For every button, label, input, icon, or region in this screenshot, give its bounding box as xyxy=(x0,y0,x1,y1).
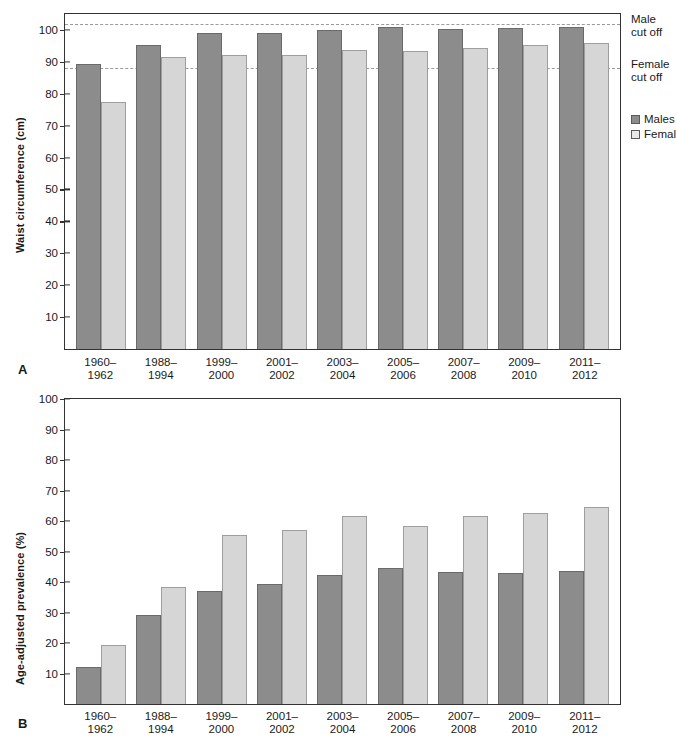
bar-group xyxy=(554,399,614,704)
x-axis-category-label: 1960– 1962 xyxy=(70,710,131,736)
bar-females xyxy=(161,587,186,704)
y-tick-label: 70 xyxy=(25,485,65,497)
x-axis-category-label: 2009– 2010 xyxy=(494,356,555,382)
panel-a: Waist circumference (cm) 102030405060708… xyxy=(0,0,676,390)
bar-females xyxy=(342,516,367,704)
x-axis-category-label: 2007– 2008 xyxy=(433,356,494,382)
x-axis-category-label: 2003– 2004 xyxy=(312,710,373,736)
bar-group xyxy=(71,14,131,349)
y-tick-label: 100 xyxy=(25,393,65,405)
legend-label-males: Males xyxy=(644,112,675,127)
legend-item-males: Males xyxy=(631,112,676,127)
y-tick-label: 10 xyxy=(25,311,65,323)
bar-group xyxy=(554,14,614,349)
figure-waist-circumference-and-prevalence: Waist circumference (cm) 102030405060708… xyxy=(0,0,676,756)
panel-a-plot-area: 102030405060708090100 xyxy=(64,13,621,350)
bar-males xyxy=(197,591,222,704)
x-axis-category-label: 1960– 1962 xyxy=(70,356,131,382)
y-tick-label: 90 xyxy=(25,424,65,436)
x-axis-category-label: 2011– 2012 xyxy=(555,356,616,382)
x-axis-category-label: 1988– 1994 xyxy=(131,710,192,736)
bar-females xyxy=(282,530,307,704)
bar-group xyxy=(252,399,312,704)
bar-males xyxy=(136,615,161,704)
x-axis-category-label: 2005– 2006 xyxy=(373,710,434,736)
bar-group xyxy=(493,399,553,704)
x-axis-category-label: 2003– 2004 xyxy=(312,356,373,382)
x-axis-category-label: 2011– 2012 xyxy=(555,710,616,736)
bar-females xyxy=(463,48,488,349)
x-axis-category-label: 1999– 2000 xyxy=(191,356,252,382)
bar-group xyxy=(312,399,372,704)
y-tick-label: 100 xyxy=(25,24,65,36)
panel-b-bar-groups xyxy=(65,399,620,704)
bar-females xyxy=(403,51,428,349)
bar-females xyxy=(584,507,609,704)
panel-b-x-axis-labels: 1960– 19621988– 19941999– 20002001– 2002… xyxy=(64,710,621,736)
bar-group xyxy=(192,14,252,349)
bar-females xyxy=(161,57,186,349)
panel-b: Age-adjusted prevalence (%) 102030405060… xyxy=(0,390,676,756)
bar-females xyxy=(101,645,126,704)
bar-group xyxy=(433,14,493,349)
y-tick-label: 40 xyxy=(25,215,65,227)
legend-swatch-males-icon xyxy=(631,115,640,124)
x-axis-category-label: 1988– 1994 xyxy=(131,356,192,382)
y-tick-label: 30 xyxy=(25,607,65,619)
bar-males xyxy=(257,584,282,704)
bar-males xyxy=(559,27,584,349)
bar-females xyxy=(584,43,609,349)
bar-females xyxy=(342,50,367,349)
bar-males xyxy=(136,45,161,349)
bar-females xyxy=(282,55,307,349)
x-axis-category-label: 2001– 2002 xyxy=(252,356,313,382)
y-tick-label: 60 xyxy=(25,515,65,527)
x-axis-category-label: 1999– 2000 xyxy=(191,710,252,736)
y-tick-label: 50 xyxy=(25,546,65,558)
bar-males xyxy=(197,33,222,349)
bar-group xyxy=(493,14,553,349)
bar-females xyxy=(101,102,126,349)
bar-males xyxy=(559,571,584,704)
female-cut-off-label: Female cut off xyxy=(631,58,669,84)
bar-group xyxy=(192,399,252,704)
bar-females xyxy=(463,516,488,704)
bar-males xyxy=(498,573,523,704)
bar-group xyxy=(71,399,131,704)
bar-males xyxy=(317,30,342,349)
bar-females xyxy=(222,55,247,349)
panel-a-bar-groups xyxy=(65,14,620,349)
bar-males xyxy=(438,572,463,704)
x-axis-category-label: 2001– 2002 xyxy=(252,710,313,736)
bar-males xyxy=(378,568,403,704)
y-tick-label: 60 xyxy=(25,152,65,164)
bar-group xyxy=(373,399,433,704)
x-axis-category-label: 2009– 2010 xyxy=(494,710,555,736)
legend-swatch-females-icon xyxy=(631,130,640,139)
male-cut-off-label: Male cut off xyxy=(631,13,662,39)
bar-males xyxy=(76,667,101,705)
panel-a-x-axis-labels: 1960– 19621988– 19941999– 20002001– 2002… xyxy=(64,356,621,382)
y-tick-label: 10 xyxy=(25,668,65,680)
x-axis-category-label: 2005– 2006 xyxy=(373,356,434,382)
legend-item-females: Females xyxy=(631,127,676,142)
y-tick-label: 90 xyxy=(25,56,65,68)
bar-males xyxy=(257,33,282,349)
panel-b-plot-area: 102030405060708090100 xyxy=(64,398,621,705)
bar-group xyxy=(131,399,191,704)
y-tick-label: 30 xyxy=(25,247,65,259)
y-tick-label: 70 xyxy=(25,120,65,132)
bar-group xyxy=(131,14,191,349)
bar-group xyxy=(433,399,493,704)
y-tick-label: 20 xyxy=(25,279,65,291)
bar-group xyxy=(312,14,372,349)
bar-females xyxy=(403,526,428,704)
bar-group xyxy=(252,14,312,349)
bar-males xyxy=(438,29,463,349)
bar-group xyxy=(373,14,433,349)
y-tick-label: 80 xyxy=(25,454,65,466)
bar-males xyxy=(498,28,523,349)
panel-b-letter: B xyxy=(18,716,27,731)
y-tick-label: 80 xyxy=(25,88,65,100)
y-tick-label: 50 xyxy=(25,183,65,195)
